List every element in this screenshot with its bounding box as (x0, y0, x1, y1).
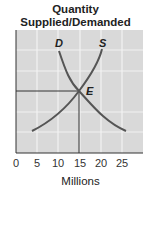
x-tick-5: 5 (34, 157, 40, 169)
x-tick-10: 10 (52, 157, 64, 169)
x-tick-20: 20 (95, 157, 107, 169)
x-tick-15: 15 (74, 157, 86, 169)
supply-label: S (99, 37, 107, 49)
x-tick-0: 0 (13, 157, 19, 169)
x-tick-25: 25 (116, 157, 128, 169)
x-axis-label: Millions (0, 175, 151, 187)
demand-label: D (55, 37, 63, 49)
equilibrium-label: E (86, 85, 94, 97)
